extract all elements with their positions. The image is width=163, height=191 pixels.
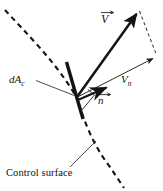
label-area-element-symbol: dA bbox=[9, 73, 21, 85]
label-normal-velocity-subscript: n bbox=[128, 79, 132, 88]
label-velocity-vector: V bbox=[101, 13, 108, 25]
figure-container: V Vn dAc n Control surface bbox=[0, 0, 163, 191]
label-normal-velocity-symbol: V bbox=[121, 73, 128, 85]
label-control-surface: Control surface bbox=[6, 168, 73, 179]
label-normal-velocity: Vn bbox=[121, 74, 131, 88]
vector-accent-wrapper-n: n bbox=[98, 95, 104, 106]
area-element-leader bbox=[36, 81, 76, 97]
diagram-canvas bbox=[0, 0, 163, 191]
label-unit-normal: n bbox=[98, 95, 104, 106]
control-surface-curve-lower bbox=[79, 104, 124, 188]
control-surface-leader bbox=[70, 141, 96, 167]
label-velocity-vector-symbol: V bbox=[101, 13, 108, 25]
label-unit-normal-symbol: n bbox=[98, 95, 104, 106]
normal-velocity-vector bbox=[78, 59, 154, 98]
label-area-element: dAc bbox=[9, 74, 25, 88]
label-area-element-subscript: c bbox=[21, 79, 24, 88]
vector-accent-wrapper-V: V bbox=[101, 13, 108, 25]
projection-connector bbox=[140, 11, 157, 55]
